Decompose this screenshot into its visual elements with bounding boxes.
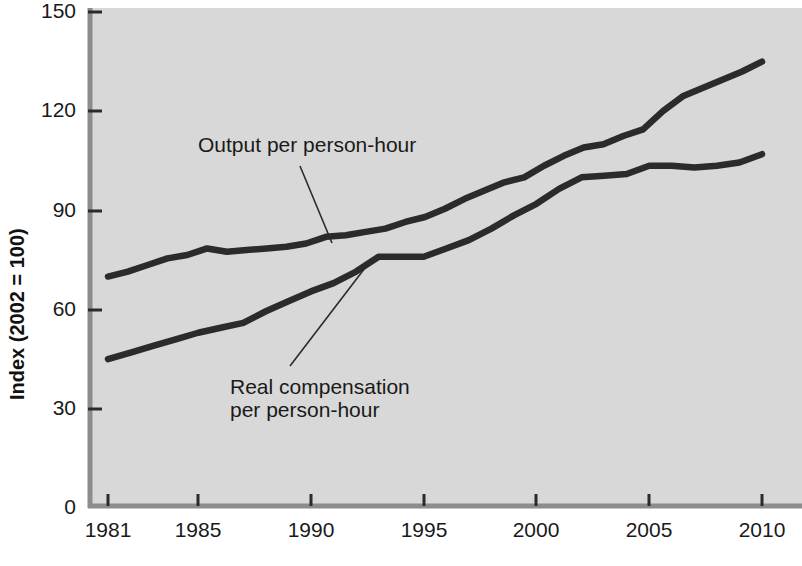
annotation-real-compensation-line2: per person-hour bbox=[230, 398, 379, 422]
y-tick-label-30: 30 bbox=[16, 396, 76, 420]
plot-background bbox=[88, 8, 802, 508]
chart-canvas bbox=[0, 0, 802, 566]
x-tick-label-1995: 1995 bbox=[384, 518, 464, 542]
x-tick-label-1985: 1985 bbox=[158, 518, 238, 542]
y-tick-label-120: 120 bbox=[16, 98, 76, 122]
x-tick-label-1990: 1990 bbox=[271, 518, 351, 542]
y-tick-label-150: 150 bbox=[16, 0, 76, 23]
annotation-real-compensation-line1: Real compensation bbox=[230, 375, 410, 399]
chart-figure: Index (2002 = 100) 150 120 90 60 30 0 19… bbox=[0, 0, 802, 566]
y-tick-label-60: 60 bbox=[16, 297, 76, 321]
y-tick-label-0: 0 bbox=[16, 495, 76, 519]
x-tick-label-2010: 2010 bbox=[722, 518, 802, 542]
x-tick-label-2005: 2005 bbox=[609, 518, 689, 542]
annotation-output-per-person-hour: Output per person-hour bbox=[198, 133, 416, 157]
x-tick-label-1981: 1981 bbox=[68, 518, 148, 542]
x-tick-label-2000: 2000 bbox=[496, 518, 576, 542]
y-tick-label-90: 90 bbox=[16, 198, 76, 222]
